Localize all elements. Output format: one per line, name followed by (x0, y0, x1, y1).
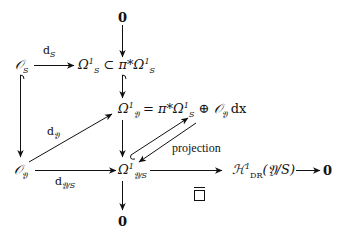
hook-arrow-pistar-to-omegay (123, 75, 127, 98)
label-d-Y-over-S: d𝔜/S (55, 176, 75, 187)
arrow-dy (29, 114, 112, 162)
node-zero-top: 0 (118, 11, 127, 24)
label-overline-box-operator (194, 188, 205, 204)
node-zero-right: 0 (323, 164, 332, 177)
commutative-diagram-arrows (0, 0, 345, 236)
node-Omega1-Y-decomposition: Ω1𝔜 = π*Ω1S ⊕ 𝒪𝔜 dx (118, 102, 246, 115)
node-Omega1-S-subset-pistar: Ω1S ⊂ π*Ω1S (78, 58, 155, 71)
oplus-symbol: ⊕ (194, 101, 213, 116)
label-d-S: dS (43, 45, 56, 56)
node-O-S: 𝒪S (15, 58, 28, 71)
label-projection: projection (172, 142, 221, 154)
subset-symbol: ⊂ (104, 57, 115, 72)
box-icon (194, 190, 205, 201)
hook-arrow-os-to-oy (21, 75, 25, 157)
node-zero-bottom: 0 (118, 215, 127, 228)
node-O-Y: 𝒪𝔜 (14, 163, 27, 176)
sheaf-O: 𝒪 (15, 57, 23, 72)
node-Omega1-Y-over-S: Ω1𝔜/S (118, 163, 147, 176)
label-d-Y: d𝔜 (47, 126, 59, 137)
node-H1-DR: ℋ1DR(𝔜/S) (232, 163, 295, 176)
